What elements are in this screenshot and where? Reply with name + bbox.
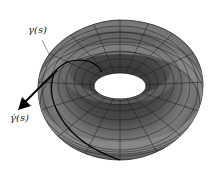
torus-hole [94, 73, 146, 99]
curve-label-leader [42, 40, 50, 56]
tangent-label: γ̇(s) [10, 112, 29, 123]
curve-label: γ(s) [28, 24, 47, 35]
